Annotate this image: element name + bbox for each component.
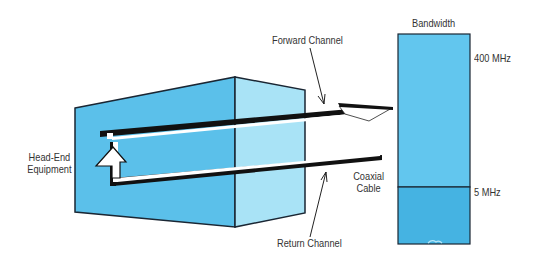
coaxial-line1: Coaxial — [351, 170, 386, 182]
bandwidth-bar — [398, 34, 470, 244]
forward-channel-label: Forward Channel — [272, 34, 343, 46]
bandwidth-title: Bandwidth — [412, 17, 455, 29]
head-end-line2: Equipment — [23, 163, 76, 175]
return-channel-pointer — [310, 172, 327, 237]
head-end-line1: Head-End — [23, 151, 76, 163]
return-channel-label: Return Channel — [277, 237, 342, 249]
head-end-equipment-label: Head-End Equipment — [23, 151, 76, 175]
box-side-face — [235, 77, 305, 227]
bandwidth-return-segment — [398, 187, 470, 244]
coaxial-cable-label: Coaxial Cable — [351, 170, 386, 194]
cable-system-diagram — [0, 0, 535, 267]
bandwidth-400mhz-label: 400 MHz — [474, 52, 511, 64]
bandwidth-5mhz-label: 5 MHz — [474, 186, 501, 198]
forward-channel-pointer — [310, 48, 325, 104]
box-front-face — [75, 77, 235, 227]
bandwidth-forward-segment — [398, 34, 470, 187]
coaxial-line2: Cable — [351, 182, 386, 194]
